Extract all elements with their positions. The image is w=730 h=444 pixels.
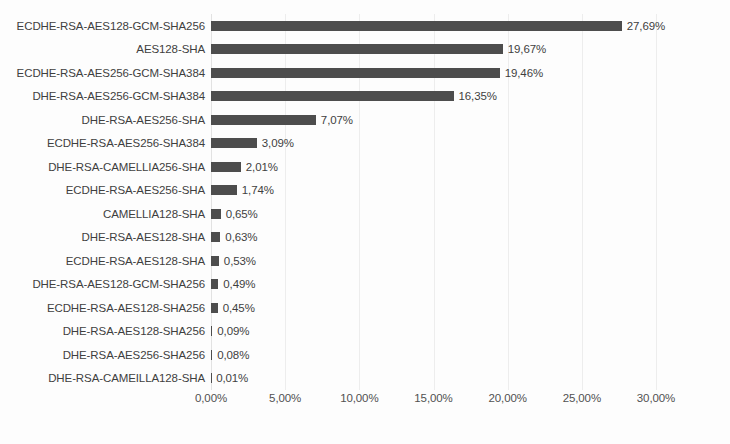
x-axis-tick-label: 20,00% — [488, 392, 526, 404]
x-axis-tick-label: 5,00% — [269, 392, 301, 404]
category-label: AES128-SHA — [136, 43, 205, 55]
bar-row[interactable]: ECDHE-RSA-AES128-SHA0,53% — [0, 249, 730, 273]
bar-with-value: 19,46% — [211, 68, 543, 78]
bar[interactable] — [211, 279, 218, 289]
bar-value-label: 0,63% — [225, 231, 257, 243]
bar[interactable] — [211, 162, 241, 172]
category-label: DHE-RSA-AES128-GCM-SHA256 — [32, 278, 205, 290]
bar-with-value: 0,45% — [211, 303, 255, 313]
bar-with-value: 16,35% — [211, 91, 497, 101]
bar-with-value: 27,69% — [211, 21, 665, 31]
bar-with-value: 0,09% — [211, 326, 249, 336]
bar[interactable] — [211, 303, 218, 313]
bar-value-label: 0,49% — [223, 278, 255, 290]
bar-row[interactable]: DHE-RSA-CAMELLIA256-SHA2,01% — [0, 155, 730, 179]
bar-with-value: 3,09% — [211, 138, 294, 148]
category-label: ECDHE-RSA-AES128-SHA256 — [47, 302, 205, 314]
category-label: ECDHE-RSA-AES256-SHA — [66, 184, 205, 196]
bar-with-value: 1,74% — [211, 185, 274, 195]
bar[interactable] — [211, 350, 212, 360]
category-label: ECDHE-RSA-AES256-SHA384 — [47, 137, 205, 149]
bar-row[interactable]: ECDHE-RSA-AES128-GCM-SHA25627,69% — [0, 14, 730, 38]
category-label: ECDHE-RSA-AES256-GCM-SHA384 — [17, 67, 205, 79]
bar-value-label: 19,67% — [508, 43, 546, 55]
bar-value-label: 0,45% — [223, 302, 255, 314]
bar[interactable] — [211, 209, 221, 219]
bar-with-value: 0,63% — [211, 232, 257, 242]
category-label: DHE-RSA-AES128-SHA — [82, 231, 205, 243]
bar[interactable] — [211, 138, 257, 148]
category-label: DHE-RSA-AES256-GCM-SHA384 — [32, 90, 205, 102]
bar[interactable] — [211, 256, 219, 266]
bar-chart: ECDHE-RSA-AES128-GCM-SHA25627,69%AES128-… — [0, 0, 730, 444]
bar-value-label: 3,09% — [262, 137, 294, 149]
category-label: DHE-RSA-AES256-SHA — [82, 114, 205, 126]
bar-row[interactable]: DHE-RSA-AES256-GCM-SHA38416,35% — [0, 85, 730, 109]
bar-row[interactable]: CAMELLIA128-SHA0,65% — [0, 202, 730, 226]
bar-row[interactable]: DHE-RSA-AES128-GCM-SHA2560,49% — [0, 273, 730, 297]
bar-with-value: 0,08% — [211, 350, 249, 360]
bar-with-value: 0,53% — [211, 256, 256, 266]
bar[interactable] — [211, 115, 316, 125]
bar-with-value: 0,01% — [211, 373, 248, 383]
bar-row[interactable]: ECDHE-RSA-AES256-SHA3843,09% — [0, 132, 730, 156]
bar-with-value: 7,07% — [211, 115, 353, 125]
bar-row[interactable]: DHE-RSA-CAMEILLA128-SHA0,01% — [0, 367, 730, 391]
bar[interactable] — [211, 21, 622, 31]
bar-row[interactable]: ECDHE-RSA-AES256-GCM-SHA38419,46% — [0, 61, 730, 85]
bar-row[interactable]: DHE-RSA-AES128-SHA0,63% — [0, 226, 730, 250]
bar[interactable] — [211, 68, 500, 78]
category-label: DHE-RSA-AES256-SHA256 — [63, 349, 205, 361]
bar-value-label: 2,01% — [246, 161, 278, 173]
bar[interactable] — [211, 232, 220, 242]
category-label: DHE-RSA-AES128-SHA256 — [63, 325, 205, 337]
category-label: DHE-RSA-CAMELLIA256-SHA — [48, 161, 205, 173]
x-axis-tick-label: 10,00% — [340, 392, 378, 404]
bar-value-label: 0,08% — [217, 349, 249, 361]
x-axis-tick-label: 25,00% — [563, 392, 601, 404]
category-label: ECDHE-RSA-AES128-GCM-SHA256 — [17, 20, 205, 32]
bar-value-label: 16,35% — [459, 90, 497, 102]
bar-row[interactable]: DHE-RSA-AES256-SHA2560,08% — [0, 343, 730, 367]
bar[interactable] — [211, 185, 237, 195]
bar-value-label: 0,53% — [224, 255, 256, 267]
x-axis-tick-label: 30,00% — [637, 392, 675, 404]
category-label: ECDHE-RSA-AES128-SHA — [66, 255, 205, 267]
bar[interactable] — [211, 91, 454, 101]
bar-row[interactable]: AES128-SHA19,67% — [0, 38, 730, 62]
x-axis-tick-label: 15,00% — [414, 392, 452, 404]
bar-value-label: 1,74% — [242, 184, 274, 196]
category-label: DHE-RSA-CAMEILLA128-SHA — [48, 372, 205, 384]
bar-with-value: 0,49% — [211, 279, 255, 289]
bar-value-label: 7,07% — [321, 114, 353, 126]
bar-with-value: 2,01% — [211, 162, 278, 172]
bar-rows: ECDHE-RSA-AES128-GCM-SHA25627,69%AES128-… — [0, 14, 730, 390]
x-axis-tick-label: 0,00% — [195, 392, 227, 404]
bar-row[interactable]: DHE-RSA-AES128-SHA2560,09% — [0, 320, 730, 344]
bar[interactable] — [211, 326, 212, 336]
bar-row[interactable]: DHE-RSA-AES256-SHA7,07% — [0, 108, 730, 132]
bar-with-value: 19,67% — [211, 44, 546, 54]
bar-value-label: 0,65% — [226, 208, 258, 220]
bar[interactable] — [211, 44, 503, 54]
bar-value-label: 19,46% — [505, 67, 543, 79]
bar-with-value: 0,65% — [211, 209, 258, 219]
category-label: CAMELLIA128-SHA — [103, 208, 205, 220]
bar-value-label: 0,01% — [216, 372, 248, 384]
bar-row[interactable]: ECDHE-RSA-AES256-SHA1,74% — [0, 179, 730, 203]
bar-value-label: 27,69% — [627, 20, 665, 32]
bar-row[interactable]: ECDHE-RSA-AES128-SHA2560,45% — [0, 296, 730, 320]
x-axis: 0,00%5,00%10,00%15,00%20,00%25,00%30,00% — [0, 392, 730, 416]
bar-value-label: 0,09% — [217, 325, 249, 337]
